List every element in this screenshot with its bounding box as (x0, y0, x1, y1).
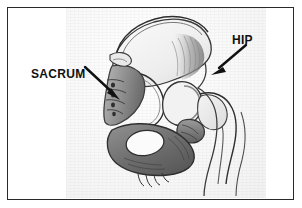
figure-border-frame: SACRUM HIP (7, 7, 294, 200)
figure-root: SACRUM HIP (0, 0, 302, 208)
acetabulum-group (163, 82, 203, 126)
acetabulum-rim (163, 82, 203, 126)
sacrum-arrow-icon (82, 64, 128, 108)
hip-arrow-icon (206, 42, 250, 82)
sacrum-label: SACRUM (31, 68, 85, 80)
hip-label: HIP (232, 34, 253, 46)
posterior-contour-secondary (236, 112, 245, 196)
